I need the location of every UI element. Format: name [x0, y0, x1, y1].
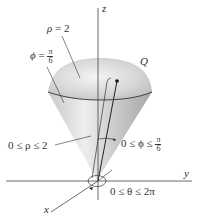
sphere-equation-label: ρ = 2: [47, 23, 70, 34]
x-axis-label: x: [44, 204, 49, 215]
rho-symbol: ρ: [47, 22, 52, 34]
cone-angle-fraction: π 6: [47, 48, 53, 65]
cone-equation-label: ϕ = π 6: [30, 48, 53, 65]
fraction-denominator: 6: [155, 145, 161, 153]
equals: =: [55, 22, 61, 34]
spherical-region-diagram: [0, 0, 198, 218]
fraction-denominator: 6: [47, 57, 53, 65]
sphere-radius: 2: [64, 22, 70, 34]
sphere-cap: [48, 58, 152, 100]
point-marker: [115, 79, 119, 83]
phi-symbol: ϕ: [30, 49, 36, 61]
rho-bounds-label: 0 ≤ ρ ≤ 2: [8, 140, 48, 151]
phi-bounds-label: 0 ≤ ϕ ≤ π 6: [121, 136, 161, 153]
phi-bounds-prefix: 0 ≤ ϕ ≤: [121, 137, 153, 149]
theta-bounds-label: 0 ≤ θ ≤ 2π: [110, 186, 155, 197]
phi-bound-fraction: π 6: [155, 136, 161, 153]
x-axis: [51, 181, 98, 212]
equals: =: [38, 49, 44, 61]
z-axis-label: z: [102, 3, 106, 14]
theta-arrowhead: [89, 187, 93, 190]
region-label: Q: [140, 56, 148, 67]
y-axis-label: y: [184, 168, 189, 179]
